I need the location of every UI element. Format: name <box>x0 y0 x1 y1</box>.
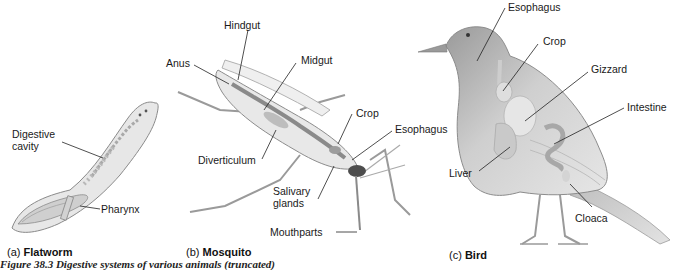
label-gizzard: Gizzard <box>591 63 627 75</box>
label-digestive-line1: Digestive <box>12 128 55 140</box>
label-pharynx: Pharynx <box>101 203 140 215</box>
label-intestine: Intestine <box>627 101 667 113</box>
label-anus: Anus <box>166 57 190 69</box>
label-liver: Liver <box>449 167 472 179</box>
label-digestive-line2: cavity <box>12 140 55 152</box>
panel-letter-b: (b) <box>186 246 199 258</box>
panel-title-flatworm: Flatworm <box>24 246 73 258</box>
label-digestive-cavity: Digestive cavity <box>12 128 55 152</box>
label-crop-bird: Crop <box>543 35 566 47</box>
panel-title-bird: Bird <box>465 249 487 261</box>
label-esophagus-bird: Esophagus <box>508 1 561 13</box>
panel-letter-c: (c) <box>449 249 462 261</box>
figure-caption: Figure 38.3 Digestive systems of various… <box>0 258 275 270</box>
panel-letter-a: (a) <box>7 246 20 258</box>
label-cloaca: Cloaca <box>575 212 608 224</box>
panel-caption-bird: (c) Bird <box>449 249 487 262</box>
label-mouthparts: Mouthparts <box>270 226 323 238</box>
label-midgut: Midgut <box>301 54 333 66</box>
label-salivary-glands: Salivary glands <box>273 185 310 209</box>
label-diverticulum: Diverticulum <box>198 154 256 166</box>
bird-illustration <box>418 27 670 244</box>
label-salivary-line2: glands <box>273 197 310 209</box>
label-hindgut: Hindgut <box>224 19 260 31</box>
label-crop-mosquito: Crop <box>356 107 379 119</box>
label-salivary-line1: Salivary <box>273 185 310 197</box>
label-esophagus-mosquito: Esophagus <box>395 123 448 135</box>
panel-title-mosquito: Mosquito <box>203 246 252 258</box>
